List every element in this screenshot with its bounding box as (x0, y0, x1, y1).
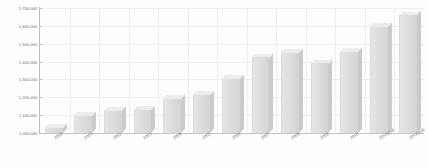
gridline-vertical (70, 8, 71, 133)
y-axis-tick-mark (39, 79, 42, 80)
bar[interactable] (163, 99, 181, 133)
y-axis-tick-mark (39, 26, 42, 27)
bar[interactable] (104, 111, 122, 133)
bar[interactable] (311, 63, 329, 133)
gridline-vertical (365, 8, 366, 133)
bar-side-face (92, 112, 96, 133)
gridline-vertical (129, 8, 130, 133)
y-axis-tick-label: 1,600,000 (1, 23, 37, 28)
bar-front-face (163, 99, 181, 133)
bar-front-face (104, 111, 122, 133)
y-axis-tick-mark (39, 44, 42, 45)
y-axis-tick-label: 1,400,000 (1, 59, 37, 64)
bar-side-face (269, 53, 273, 133)
gridline-horizontal (40, 26, 424, 27)
y-axis-tick-label: 1,200,000 (1, 95, 37, 100)
bar[interactable] (193, 95, 211, 133)
y-axis-tick-label: 1,500,000 (1, 41, 37, 46)
bar[interactable] (340, 52, 358, 133)
plot-area (40, 8, 424, 133)
bar-front-face (340, 52, 358, 133)
gridline-vertical (306, 8, 307, 133)
bar-front-face (281, 53, 299, 133)
bar-side-face (151, 106, 155, 133)
y-axis-tick-label: 1,100,000 (1, 113, 37, 118)
bar-front-face (134, 110, 152, 133)
bar-side-face (388, 23, 392, 133)
y-axis-tick-label: 1,000,000 (1, 131, 37, 136)
gridline-vertical (247, 8, 248, 133)
y-axis-tick-mark (39, 62, 42, 63)
bar-front-face (222, 79, 240, 133)
x-axis-line (39, 133, 424, 134)
bar-side-face (417, 11, 421, 133)
bar-front-face (370, 27, 388, 133)
bar[interactable] (370, 27, 388, 133)
bar-side-face (181, 95, 185, 133)
y-axis-tick-mark (39, 8, 42, 9)
gridline-horizontal (40, 8, 424, 9)
bar-front-face (311, 63, 329, 133)
bar[interactable] (281, 53, 299, 133)
gridline-vertical (188, 8, 189, 133)
bar[interactable] (222, 79, 240, 133)
bar[interactable] (399, 15, 417, 133)
bar[interactable] (134, 110, 152, 133)
y-axis-tick-label: 1,700,000 (1, 6, 37, 11)
y-axis-tick-mark (39, 97, 42, 98)
gridline-vertical (99, 8, 100, 133)
gridline-vertical (217, 8, 218, 133)
y-axis-tick-mark (39, 115, 42, 116)
gridline-vertical (276, 8, 277, 133)
bar-front-face (252, 57, 270, 133)
bar-side-face (358, 48, 362, 133)
bar[interactable] (252, 57, 270, 133)
gridline-vertical (394, 8, 395, 133)
gridline-vertical (335, 8, 336, 133)
bar-side-face (299, 49, 303, 133)
y-axis-tick-label: 1,300,000 (1, 77, 37, 82)
bar-side-face (240, 75, 244, 133)
gridline-horizontal (40, 44, 424, 45)
bar-front-face (193, 95, 211, 133)
y-axis: 1,700,0001,600,0001,500,0001,400,0001,30… (0, 8, 37, 133)
gridline-vertical (158, 8, 159, 133)
gridline-horizontal (40, 62, 424, 63)
y-axis-tick-mark (39, 133, 42, 134)
bar-side-face (328, 59, 332, 133)
bar-chart: 1,700,0001,600,0001,500,0001,400,0001,30… (0, 0, 428, 168)
bar-front-face (399, 15, 417, 133)
bar-side-face (210, 91, 214, 133)
bar-side-face (122, 107, 126, 133)
